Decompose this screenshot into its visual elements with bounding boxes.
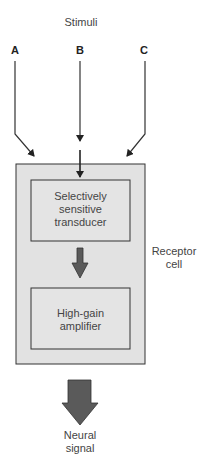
receptor-label-line2: cell [145, 258, 203, 271]
neural-signal-line2: signal [50, 442, 110, 455]
transducer-label-line3: transducer [31, 216, 130, 229]
receptor-cell-label: Receptor cell [145, 245, 203, 271]
amplifier-label-line1: High-gain [31, 307, 130, 320]
neural-signal-arrow-icon [62, 380, 98, 425]
stimulus-arrow-a [15, 61, 34, 156]
transducer-label: Selectively sensitive transducer [31, 190, 130, 229]
transducer-label-line1: Selectively [31, 190, 130, 203]
amplifier-label-line2: amplifier [31, 320, 130, 333]
stimulus-arrow-c [127, 61, 145, 156]
transducer-label-line2: sensitive [31, 203, 130, 216]
diagram-canvas [0, 0, 203, 469]
receptor-label-line1: Receptor [145, 245, 203, 258]
amplifier-label: High-gain amplifier [31, 307, 130, 333]
neural-signal-label: Neural signal [50, 429, 110, 455]
neural-signal-line1: Neural [50, 429, 110, 442]
